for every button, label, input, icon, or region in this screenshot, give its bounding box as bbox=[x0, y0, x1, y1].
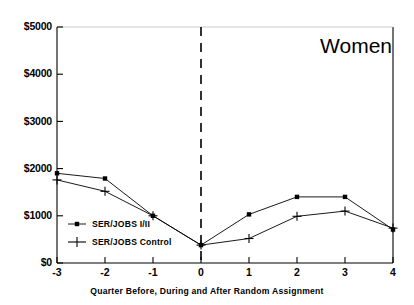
legend-marker-ser-jobs-control bbox=[68, 237, 86, 247]
x-tick-label-0: 0 bbox=[189, 266, 213, 278]
x-tick-label-4: 4 bbox=[381, 266, 405, 278]
x-tick-label--2: -2 bbox=[93, 266, 117, 278]
y-tick-label-3000: $3000 bbox=[4, 115, 52, 127]
x-axis-ticks bbox=[57, 257, 393, 263]
y-axis-ticks bbox=[57, 27, 63, 263]
y-tick-label-4000: $4000 bbox=[4, 67, 52, 79]
series-line-ser-jobs-control bbox=[57, 180, 393, 245]
series-line-ser-jobs-i-ii bbox=[57, 173, 393, 245]
chart-figure: $0 $1000 $2000 $3000 $4000 $5000 -3 -2 -… bbox=[0, 0, 414, 305]
x-tick-label-1: 1 bbox=[237, 266, 261, 278]
x-tick-label--3: -3 bbox=[45, 266, 69, 278]
series-markers-ser-jobs-i-ii bbox=[55, 171, 395, 247]
legend-label-ser-jobs-control: SER/JOBS Control bbox=[92, 237, 172, 247]
y-tick-label-5000: $5000 bbox=[4, 20, 52, 32]
y-tick-label-1000: $1000 bbox=[4, 209, 52, 221]
panel-title: Women bbox=[320, 34, 392, 58]
legend-marker-ser-jobs-i-ii bbox=[68, 222, 86, 226]
x-tick-label-2: 2 bbox=[285, 266, 309, 278]
x-axis-title: Quarter Before, During and After Random … bbox=[0, 286, 414, 296]
x-tick-label-3: 3 bbox=[333, 266, 357, 278]
x-tick-label--1: -1 bbox=[141, 266, 165, 278]
y-tick-label-2000: $2000 bbox=[4, 162, 52, 174]
legend-label-ser-jobs-i-ii: SER/JOBS I/II bbox=[92, 219, 150, 229]
